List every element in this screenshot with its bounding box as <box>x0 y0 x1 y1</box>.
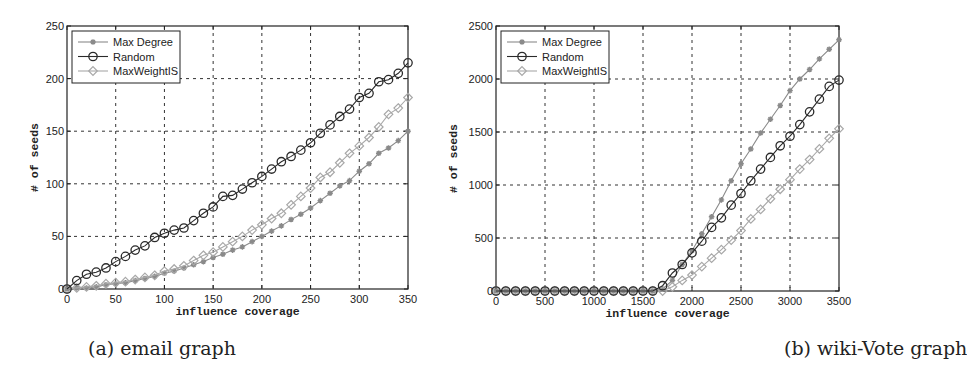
x-tick-label: 300 <box>350 293 368 305</box>
y-tick-label: 100 <box>46 178 64 190</box>
x-tick-label: 350 <box>399 293 417 305</box>
chart-panel-email: 050100150200250300350050100150200250infl… <box>0 0 436 390</box>
legend: Max DegreeRandomMaxWeightIS <box>501 31 609 83</box>
asterisk-marker-icon <box>519 39 525 45</box>
legend-label: Max Degree <box>542 36 602 48</box>
legend-label: Random <box>113 51 155 63</box>
legend-label: MaxWeightIS <box>542 65 607 77</box>
x-tick-label: 0 <box>493 295 499 307</box>
legend-item: MaxWeightIS <box>78 65 178 77</box>
x-tick-label: 250 <box>301 293 319 305</box>
asterisk-marker-icon <box>210 255 216 261</box>
legend-item: MaxWeightIS <box>507 65 607 77</box>
y-tick-label: 50 <box>52 230 64 242</box>
legend-label: MaxWeightIS <box>113 65 178 77</box>
x-tick-label: 100 <box>155 293 173 305</box>
asterisk-marker-icon <box>279 223 285 229</box>
y-tick-label: 500 <box>475 232 493 244</box>
asterisk-marker-icon <box>709 214 715 220</box>
x-tick-label: 150 <box>204 293 222 305</box>
series-line <box>496 80 839 291</box>
legend-label: Random <box>542 51 584 63</box>
asterisk-marker-icon <box>356 168 362 174</box>
chart-wiki-vote-graph: 0500100015002000250030003500050010001500… <box>436 0 873 330</box>
asterisk-marker-icon <box>269 228 275 234</box>
asterisk-marker-icon <box>699 231 705 237</box>
series-maxweightis <box>492 125 844 296</box>
asterisk-marker-icon <box>787 88 793 94</box>
asterisk-marker-icon <box>836 37 842 43</box>
asterisk-marker-icon <box>395 138 401 144</box>
asterisk-marker-icon <box>327 190 333 196</box>
series-line <box>67 63 408 289</box>
x-tick-label: 2000 <box>680 295 704 307</box>
y-tick-label: 250 <box>46 20 64 32</box>
asterisk-marker-icon <box>738 161 744 167</box>
x-axis-label: influence coverage <box>605 307 729 320</box>
asterisk-marker-icon <box>308 205 314 211</box>
x-tick-label: 3000 <box>778 295 802 307</box>
y-tick-label: 1000 <box>469 179 493 191</box>
y-axis-label: # of seeds <box>28 123 41 192</box>
asterisk-marker-icon <box>288 217 294 223</box>
x-tick-label: 1500 <box>631 295 655 307</box>
x-tick-label: 1000 <box>582 295 606 307</box>
legend-label: Max Degree <box>113 36 173 48</box>
series-random <box>492 76 843 295</box>
asterisk-marker-icon <box>230 247 236 253</box>
asterisk-marker-icon <box>719 197 725 203</box>
asterisk-marker-icon <box>817 56 823 62</box>
asterisk-marker-icon <box>728 178 734 184</box>
asterisk-marker-icon <box>337 183 343 189</box>
asterisk-marker-icon <box>240 244 246 250</box>
asterisk-marker-icon <box>90 39 96 45</box>
asterisk-marker-icon <box>748 146 754 152</box>
asterisk-marker-icon <box>220 251 226 257</box>
asterisk-marker-icon <box>777 103 783 109</box>
chart-email-graph: 050100150200250300350050100150200250infl… <box>0 0 436 330</box>
y-tick-label: 200 <box>46 73 64 85</box>
y-tick-label: 1500 <box>469 126 493 138</box>
x-tick-label: 500 <box>536 295 554 307</box>
series-maxweightis <box>63 93 413 293</box>
x-tick-label: 3500 <box>827 295 851 307</box>
series-line <box>496 129 839 291</box>
asterisk-marker-icon <box>376 150 382 156</box>
x-tick-label: 50 <box>110 293 122 305</box>
caption-wiki-vote-graph: (b) wiki-Vote graph <box>784 337 967 359</box>
asterisk-marker-icon <box>259 234 265 240</box>
y-axis-label: # of seeds <box>447 124 460 193</box>
chart-panel-wiki-vote: 0500100015002000250030003500050010001500… <box>436 0 873 390</box>
y-tick-label: 2000 <box>469 73 493 85</box>
y-tick-label: 2500 <box>469 20 493 32</box>
x-axis-label: influence coverage <box>175 305 299 318</box>
asterisk-marker-icon <box>298 212 304 218</box>
x-tick-label: 200 <box>253 293 271 305</box>
asterisk-marker-icon <box>249 239 255 245</box>
legend: Max DegreeRandomMaxWeightIS <box>72 31 180 83</box>
x-tick-label: 0 <box>64 293 70 305</box>
caption-email-graph: (a) email graph <box>88 337 236 359</box>
series-random <box>63 59 412 294</box>
y-tick-label: 150 <box>46 125 64 137</box>
asterisk-marker-icon <box>405 128 411 134</box>
x-tick-label: 2500 <box>729 295 753 307</box>
